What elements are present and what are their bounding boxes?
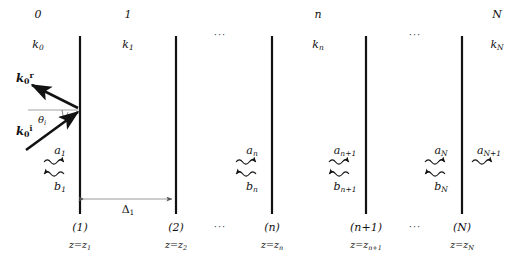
z-position-n1: z=zn+1 xyxy=(350,240,382,250)
interface-lines xyxy=(80,36,462,214)
interface-number-n1: (n+1) xyxy=(350,222,382,233)
multilayer-wave-diagram: 0 1 n N k0 k1 kn kN k0r k0i θi a1 b1 an … xyxy=(0,0,530,260)
z-position-N: z=zN xyxy=(450,240,474,250)
incident-wave-vector-arrow xyxy=(26,112,78,150)
incident-wave-vector-label: k0i xyxy=(16,126,32,138)
z-position-1: z=z1 xyxy=(69,240,91,250)
amplitude-wave-arrows xyxy=(44,160,492,176)
reflected-wave-vector-label: k0r xyxy=(16,73,34,85)
ellipsis-bottom-left: ··· xyxy=(214,222,227,232)
ellipsis-top-right: ··· xyxy=(409,30,422,40)
interface-number-2: (2) xyxy=(168,222,184,233)
z-position-2: z=z2 xyxy=(165,240,187,250)
layer-index-1: 1 xyxy=(125,9,132,20)
wavenumber-k0: k0 xyxy=(32,39,43,50)
interface-number-N: (N) xyxy=(453,222,471,233)
wavenumber-kn: kn xyxy=(312,39,323,50)
ellipsis-bottom-right: ··· xyxy=(409,222,422,232)
amplitude-forward-aN: aN xyxy=(434,145,447,156)
layer-index-0: 0 xyxy=(35,9,42,20)
layer-thickness-delta1: Δ1 xyxy=(122,204,135,215)
amplitude-backward-b1: b1 xyxy=(54,181,66,192)
amplitude-backward-bn1: bn+1 xyxy=(334,181,357,192)
amplitude-transmitted-aN1: aN+1 xyxy=(477,145,501,156)
z-position-n: z=zn xyxy=(261,240,283,250)
amplitude-forward-an1: an+1 xyxy=(334,145,356,156)
reflected-wave-vector-arrow xyxy=(32,85,78,108)
incidence-angle-label: θi xyxy=(38,115,46,125)
layer-index-n: n xyxy=(314,9,321,20)
amplitude-forward-a1: a1 xyxy=(54,145,65,156)
amplitude-forward-an: an xyxy=(246,145,257,156)
layer-index-N: N xyxy=(492,9,502,20)
wavenumber-k1: k1 xyxy=(122,39,133,50)
amplitude-backward-bn: bn xyxy=(246,181,258,192)
amplitude-backward-bN: bN xyxy=(434,181,448,192)
wavenumber-kN: kN xyxy=(490,39,503,50)
interface-number-1: (1) xyxy=(72,222,88,233)
ellipsis-top-left: ··· xyxy=(214,30,227,40)
interface-number-n: (n) xyxy=(264,222,280,233)
